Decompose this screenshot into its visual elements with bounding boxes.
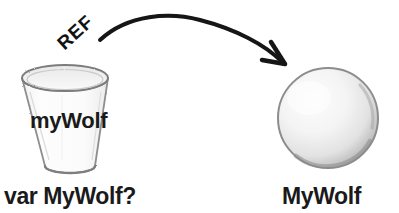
cup-variable-label: myWolf <box>30 108 107 134</box>
variable-caption: var MyWolf? <box>4 183 136 210</box>
diagram-canvas: REF myWolf var MyWolf? MyWolf <box>0 0 399 213</box>
sphere-highlight <box>287 81 331 115</box>
variable-keyword: var <box>4 183 43 209</box>
arrow-curve <box>100 16 282 62</box>
object-caption: MyWolf <box>282 183 361 210</box>
sphere-shape <box>278 68 378 168</box>
variable-name: MyWolf? <box>43 183 136 209</box>
reference-arrow <box>100 16 285 64</box>
